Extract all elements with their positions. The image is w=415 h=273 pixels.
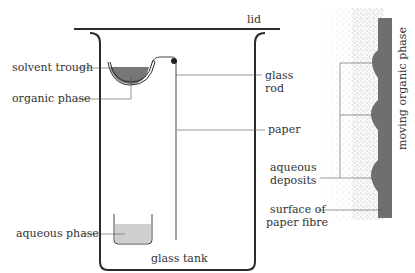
label-organic-phase: organic phase <box>12 93 91 105</box>
label-lid: lid <box>247 14 261 26</box>
label-paper: paper <box>268 124 300 136</box>
label-glass-tank: glass tank <box>151 253 208 265</box>
label-solvent-trough: solvent trough <box>12 62 93 74</box>
label-aqueous-phase: aqueous phase <box>16 228 99 240</box>
glass-rod <box>171 58 177 64</box>
label-moving-organic-phase: moving organic phase <box>397 27 409 150</box>
paper-strip-top <box>152 57 176 240</box>
label-surface-1: surface of <box>270 204 325 216</box>
label-glass-rod-2: rod <box>265 83 284 95</box>
label-aqueous-deposits-1: aqueous <box>270 162 317 174</box>
label-glass-rod-1: glass <box>265 70 293 82</box>
label-surface-2: paper fibre <box>266 217 328 229</box>
label-aqueous-deposits-2: deposits <box>270 175 316 187</box>
aqueous-phase <box>115 224 151 243</box>
